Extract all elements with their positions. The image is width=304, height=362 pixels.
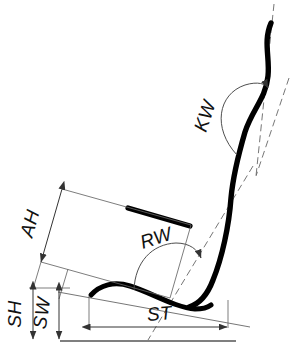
armrest-bar xyxy=(128,208,190,226)
kw-label: KW xyxy=(190,96,220,134)
ah-extension-inner xyxy=(59,269,68,299)
ah-dimension-line xyxy=(41,189,62,262)
ah-extension-left xyxy=(33,262,41,289)
rw-label: RW xyxy=(137,222,176,252)
ah-frame-right xyxy=(170,225,191,298)
seat-dimension-diagram: KW RW AH SH xyxy=(0,0,304,362)
st-label: ST xyxy=(146,302,174,325)
seat-profile xyxy=(91,23,271,309)
ah-frame-top xyxy=(62,189,191,225)
diagram-canvas: KW RW AH SH xyxy=(0,0,304,362)
backrest-curve xyxy=(189,23,271,307)
dimension-rw: RW xyxy=(134,222,201,290)
dimension-st: ST xyxy=(89,296,228,328)
dimension-kw: KW xyxy=(190,83,268,155)
sh-label: SH xyxy=(4,300,25,327)
sw-label: SW xyxy=(29,294,54,330)
ah-label: AH xyxy=(16,207,44,240)
